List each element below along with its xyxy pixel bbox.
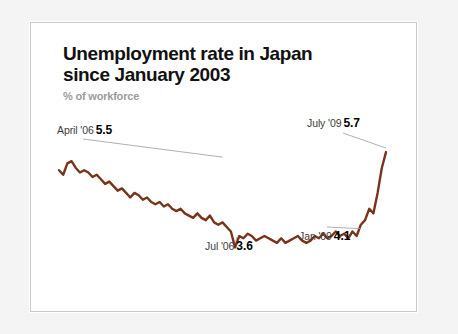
annotation-april06-value: 5.5	[96, 123, 112, 137]
annotation-jan09-value: 4.1	[334, 229, 350, 243]
unemployment-line-chart	[31, 23, 416, 311]
annotation-jul06: Jul '063.6	[205, 239, 253, 253]
annotation-jan09: Jan '094.1	[299, 229, 350, 243]
annotation-leader-lines	[83, 133, 386, 243]
screenshot-root: Unemployment rate in Japan since January…	[0, 0, 458, 334]
annotation-jul06-value: 3.6	[236, 239, 252, 253]
annotation-july09: July '095.7	[307, 116, 360, 130]
annotation-april06-label: April '06	[57, 124, 94, 136]
annotation-july09-value: 5.7	[343, 116, 359, 130]
annotation-july09-label: July '09	[307, 117, 341, 129]
annotation-jan09-label: Jan '09	[299, 230, 332, 242]
annotation-jul06-label: Jul '06	[205, 240, 234, 252]
annotation-april06: April '065.5	[57, 123, 112, 137]
chart-card: Unemployment rate in Japan since January…	[30, 22, 417, 312]
